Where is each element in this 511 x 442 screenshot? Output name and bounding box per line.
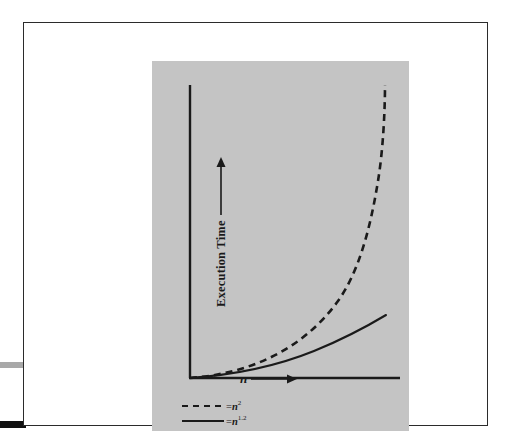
edge-mark-gray [0,362,23,368]
legend-item-n-squared: =n2 [182,399,352,412]
legend-label-n-squared: =n2 [226,399,241,412]
legend-swatch-dashed [182,401,224,411]
legend-exponent-1: 1.2 [238,414,247,422]
x-axis-label-text: n [240,371,247,387]
chart-panel: Execution Time n [152,61,409,431]
legend-exponent-0: 2 [238,399,242,407]
arrow-right-icon [251,373,297,385]
legend-label-n-1-2: =n1.2 [226,414,247,427]
legend-item-n-1-2: =n1.2 [182,414,352,427]
page-frame: Execution Time n [23,22,488,426]
curve-n-1-2 [190,315,386,378]
chart-legend: =n2 =n1.2 [182,399,352,429]
curve-n-squared [190,85,385,378]
legend-swatch-solid [182,416,224,426]
x-axis-label: n [240,371,297,387]
